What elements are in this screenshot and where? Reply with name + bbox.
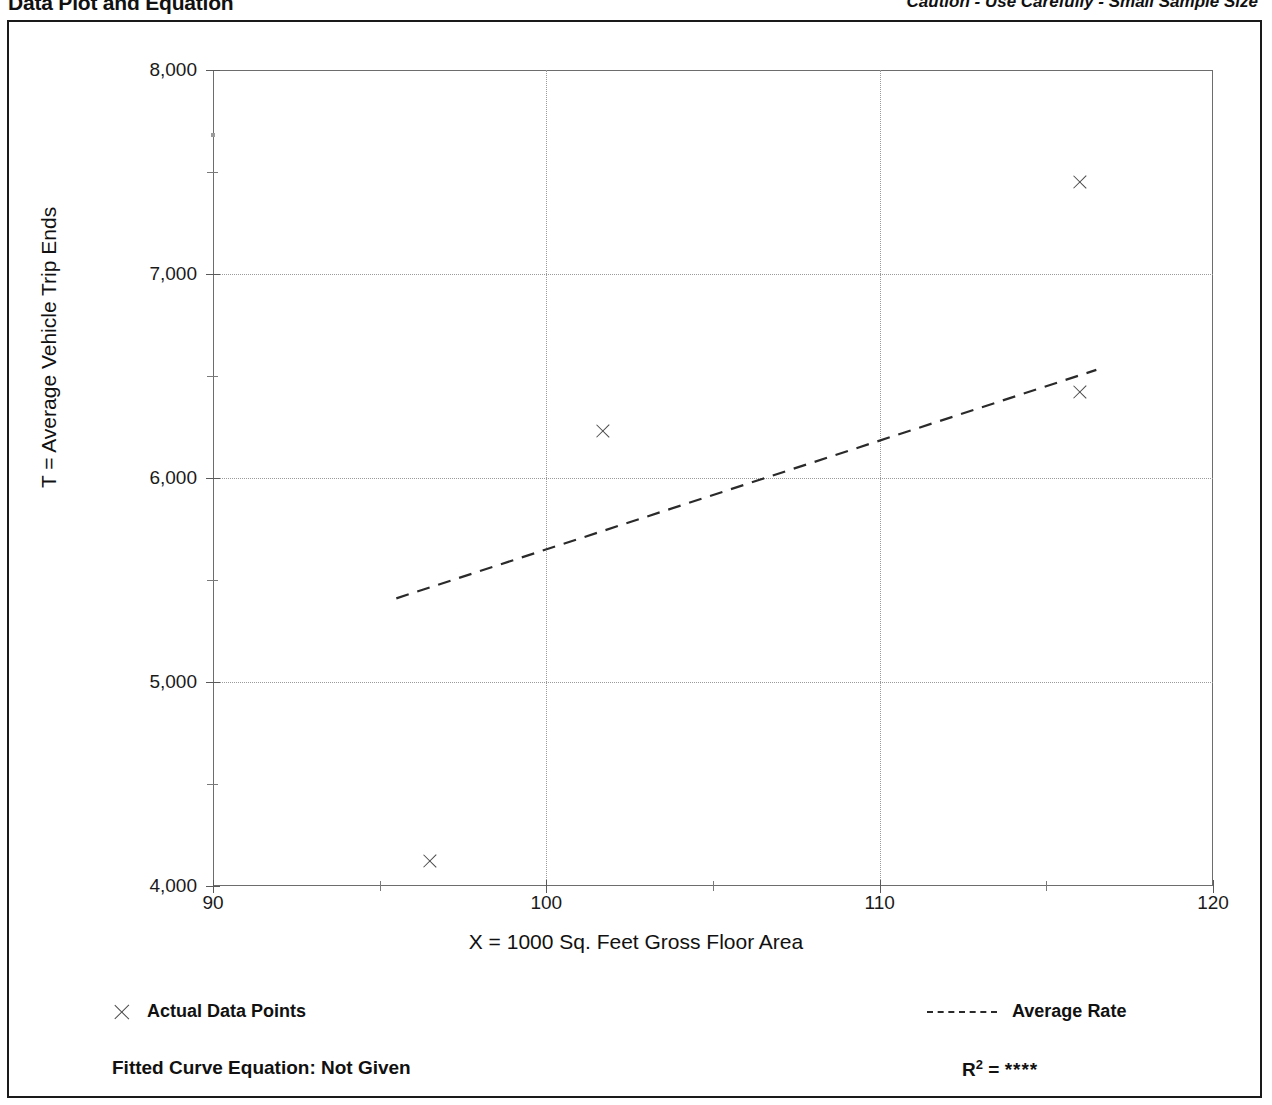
x-gridline <box>880 70 881 886</box>
x-tick-label: 110 <box>865 892 895 914</box>
y-tick-minor <box>207 580 218 581</box>
stray-speck <box>211 133 215 137</box>
y-tick-label: 5,000 <box>149 671 197 693</box>
page-header: Data Plot and Equation Caution - Use Car… <box>0 0 1272 22</box>
y-tick-major <box>206 274 220 275</box>
x-tick-minor <box>713 881 714 891</box>
x-tick-minor <box>1046 881 1047 891</box>
page-title: Data Plot and Equation <box>8 0 233 15</box>
r2-equals: = <box>983 1059 1005 1080</box>
data-point-marker <box>1071 173 1089 191</box>
data-point-marker <box>1071 383 1089 401</box>
x-tick-label: 90 <box>202 892 223 914</box>
x-tick-label: 100 <box>530 892 562 914</box>
r-squared-value: R2 = **** <box>962 1057 1038 1081</box>
y-tick-label: 7,000 <box>149 263 197 285</box>
y-gridline <box>213 478 1213 479</box>
y-tick-label: 4,000 <box>149 875 197 897</box>
x-gridline <box>546 70 547 886</box>
y-tick-minor <box>207 376 218 377</box>
plot-area: 4,0005,0006,0007,0008,00090100110120 <box>213 70 1213 886</box>
fitted-curve-equation: Fitted Curve Equation: Not Given <box>112 1057 411 1079</box>
y-tick-label: 6,000 <box>149 467 197 489</box>
y-gridline <box>213 274 1213 275</box>
x-axis-title: X = 1000 Sq. Feet Gross Floor Area <box>0 930 1272 954</box>
x-marker-icon <box>112 1002 132 1022</box>
r2-stars: **** <box>1005 1059 1039 1080</box>
y-axis-title: T = Average Vehicle Trip Ends <box>37 207 61 488</box>
y-tick-major <box>206 70 220 71</box>
y-tick-major <box>206 478 220 479</box>
y-tick-major <box>206 682 220 683</box>
y-tick-minor <box>207 172 218 173</box>
x-tick-minor <box>380 881 381 891</box>
r2-exponent: 2 <box>976 1057 983 1072</box>
y-tick-minor <box>207 784 218 785</box>
legend-line-label: Average Rate <box>1012 1001 1126 1022</box>
dashed-line-icon <box>927 1011 997 1013</box>
legend-points-label: Actual Data Points <box>147 1001 306 1022</box>
data-point-marker <box>594 422 612 440</box>
y-gridline <box>213 682 1213 683</box>
r2-prefix: R <box>962 1059 976 1080</box>
x-tick-label: 120 <box>1197 892 1229 914</box>
y-tick-label: 8,000 <box>149 59 197 81</box>
data-point-marker <box>421 852 439 870</box>
caution-note: Caution - Use Carefully - Small Sample S… <box>907 0 1258 12</box>
